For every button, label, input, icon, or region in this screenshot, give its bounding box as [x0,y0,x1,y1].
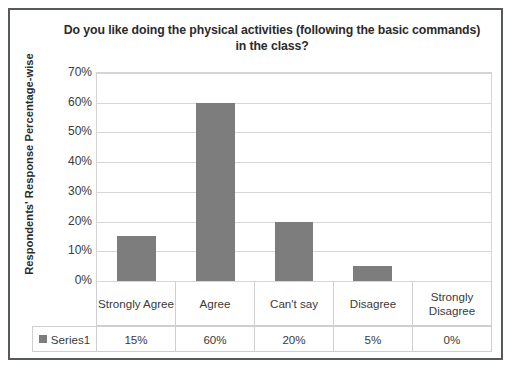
bar[interactable] [117,236,156,281]
chart-title: Do you like doing the physical activitie… [58,22,486,54]
gridline [97,73,491,74]
category-label: Strongly Agree [97,282,176,325]
y-axis-tick-label: 30% [46,185,92,197]
plot-area [96,72,492,282]
gridline [97,103,491,104]
bar[interactable] [353,266,392,281]
data-value-cell: 0% [413,327,491,351]
category-label: Can't say [255,282,334,325]
data-value-cell: 20% [255,327,334,351]
data-value-cell: 5% [334,327,413,351]
category-label: Strongly Disagree [413,282,491,325]
legend-label: Series1 [51,333,90,346]
y-axis-tick-label: 70% [46,66,92,78]
gridline [97,192,491,193]
gridline [97,132,491,133]
data-value-cell: 60% [176,327,255,351]
data-value-cell: 15% [97,327,176,351]
gridline [97,162,491,163]
y-axis-title: Respondents' Response Percentage-wise [23,39,35,289]
chart-frame: Do you like doing the physical activitie… [8,8,503,360]
category-label: Agree [176,282,255,325]
y-axis-tick-label: 0% [46,274,92,286]
data-table-row: Series1 15%60%20%5%0% [32,326,492,352]
y-axis-tick-label: 60% [46,96,92,108]
legend-swatch-icon [39,335,47,343]
y-axis-tick-label: 50% [46,125,92,137]
y-axis-tick-labels: 0%10%20%30%40%50%60%70% [40,72,92,282]
y-axis-tick-label: 40% [46,155,92,167]
y-axis-tick-label: 20% [46,215,92,227]
category-label-row: Strongly AgreeAgreeCan't sayDisagreeStro… [96,282,492,326]
bar[interactable] [275,222,314,281]
category-label: Disagree [334,282,413,325]
bar[interactable] [196,103,235,281]
y-axis-tick-label: 10% [46,244,92,256]
legend-cell: Series1 [33,327,97,351]
